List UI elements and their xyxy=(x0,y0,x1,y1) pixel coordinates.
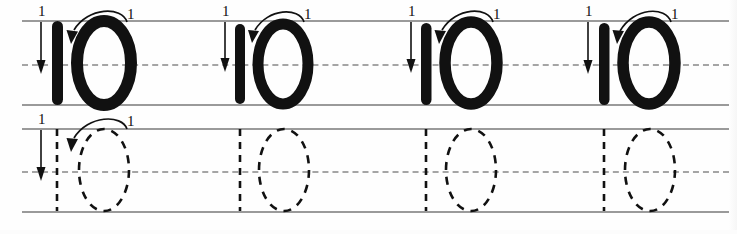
digit-zero-glyph xyxy=(623,22,675,104)
digit-one-glyph xyxy=(235,24,245,104)
stroke-number-label: 1 xyxy=(304,6,312,22)
stroke-number-label: 1 xyxy=(127,6,135,22)
stroke-number-label: 1 xyxy=(671,6,679,22)
solid-number-group-4: 1 1 xyxy=(573,0,728,112)
digit-one-glyph xyxy=(421,23,432,105)
scan-edge-shading-bottom xyxy=(0,230,737,234)
dashed-trace-row: 1 1 xyxy=(0,112,737,234)
stroke-number-label: 1 xyxy=(493,6,501,22)
dashed-number-group-1[interactable]: 1 1 xyxy=(26,112,186,234)
solid-number-group-2: 1 1 xyxy=(211,0,361,112)
digit-zero-glyph xyxy=(445,22,497,104)
scan-edge-shading-right xyxy=(729,0,737,234)
digit-one-glyph xyxy=(52,21,63,105)
digit-zero-glyph xyxy=(258,24,308,104)
solid-number-group-1: 1 1 xyxy=(26,0,186,112)
stroke-number-label: 1 xyxy=(585,3,593,19)
down-arrow-icon xyxy=(584,22,593,74)
down-arrow-icon xyxy=(221,22,230,72)
solid-number-group-3: 1 1 xyxy=(396,0,551,112)
digit-zero-trace-outline[interactable] xyxy=(446,129,496,211)
stroke-number-label: 1 xyxy=(222,3,230,19)
digit-zero-trace-outline[interactable] xyxy=(79,129,129,211)
dashed-number-group-4[interactable] xyxy=(573,112,728,234)
stroke-number-label: 1 xyxy=(38,3,46,19)
tracing-worksheet: 1 1 xyxy=(0,0,737,234)
stroke-number-label: 1 xyxy=(127,113,135,129)
stroke-number-label: 1 xyxy=(38,111,46,127)
dashed-number-group-2[interactable] xyxy=(211,112,361,234)
down-arrow-icon xyxy=(37,22,46,74)
digit-zero-trace-outline[interactable] xyxy=(625,129,675,211)
digit-one-glyph xyxy=(599,23,610,105)
dashed-number-group-3[interactable] xyxy=(396,112,551,234)
down-arrow-icon xyxy=(407,22,416,73)
stroke-number-label: 1 xyxy=(408,3,416,19)
digit-zero-trace-outline[interactable] xyxy=(259,129,309,211)
digit-zero-glyph xyxy=(77,21,131,105)
down-arrow-icon xyxy=(37,130,46,181)
solid-example-row: 1 1 xyxy=(0,0,737,112)
